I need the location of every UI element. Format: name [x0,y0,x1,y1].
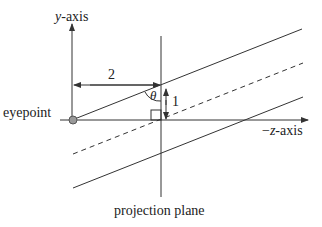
lower-parallel-line [73,97,303,188]
z-axis-label: −z-axis [262,124,303,138]
y-axis-label: y-axis [55,10,88,24]
eyepoint-label: eyepoint [3,106,51,120]
projection-plane-label: projection plane [114,204,205,218]
theta-label: θ [150,89,156,102]
distance-label: 2 [108,68,115,82]
height-label: 1 [172,95,179,109]
eyepoint-marker [69,116,77,124]
right-angle-marker [151,110,161,120]
upper-ray [72,29,302,120]
